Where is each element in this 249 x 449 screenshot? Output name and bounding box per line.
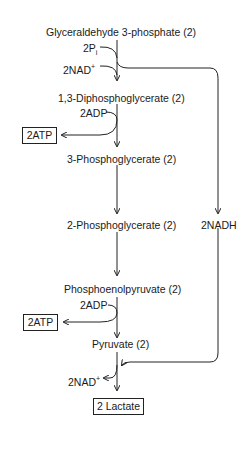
cofactor-nad-in-sup: + [91,63,95,70]
metabolite-pyruvate: Pyruvate (2) [92,338,149,350]
cofactor-nad-in: 2NAD+ [63,61,95,76]
product-atp-2: 2ATP [23,314,58,331]
metabolite-2pg: 2-Phosphoglycerate (2) [67,219,176,231]
metabolite-dpg: 1,3-Diphosphoglycerate (2) [58,92,185,104]
arrow-pi-in [100,47,117,58]
metabolite-g3p: Glyceraldehyde 3-phosphate (2) [46,26,196,38]
metabolite-pep: Phosphoenolpyruvate (2) [64,283,181,295]
cofactor-pi-sub: i [96,49,98,56]
cofactor-nad-out-main: 2NAD [68,376,96,388]
cofactor-nadh: 2NADH [201,219,237,231]
cofactor-pi-main: 2P [83,42,96,54]
cofactor-nad-in-main: 2NAD [63,64,91,76]
cofactor-nad-out: 2NAD+ [68,373,100,388]
cofactor-adp-2: 2ADP [80,299,107,311]
product-lactate: 2 Lactate [93,398,144,415]
metabolite-3pg: 3-Phosphoglycerate (2) [67,153,176,165]
cofactor-adp-1: 2ADP [80,107,107,119]
arrow-nadh-branch [117,62,218,213]
arrow-nad-out [104,365,117,378]
cofactor-pi: 2Pi [83,42,97,59]
arrow-nad-in [100,66,117,75]
product-atp-1: 2ATP [22,127,57,144]
cofactor-nad-out-sup: + [96,375,100,382]
